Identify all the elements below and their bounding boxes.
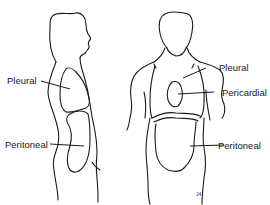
side-view-figure [41,13,100,202]
label-front-pleural: Pleural [219,63,249,73]
leader-line [178,92,214,94]
leader-line [183,68,206,78]
artist-signature: J4 [196,192,201,197]
label-side-peritoneal: Peritoneal [5,140,48,150]
label-front-peritoneal: Peritoneal [218,141,261,151]
front-view-figure [127,12,225,204]
leader-line [41,81,70,89]
diagram-drawing [0,0,270,205]
label-side-pleural: Pleural [7,76,37,86]
label-front-pericardial: Pericardial [222,88,267,98]
body-cavities-diagram: Pleural Peritoneal Pleural Pericardial P… [0,0,270,205]
leader-line [50,144,84,146]
